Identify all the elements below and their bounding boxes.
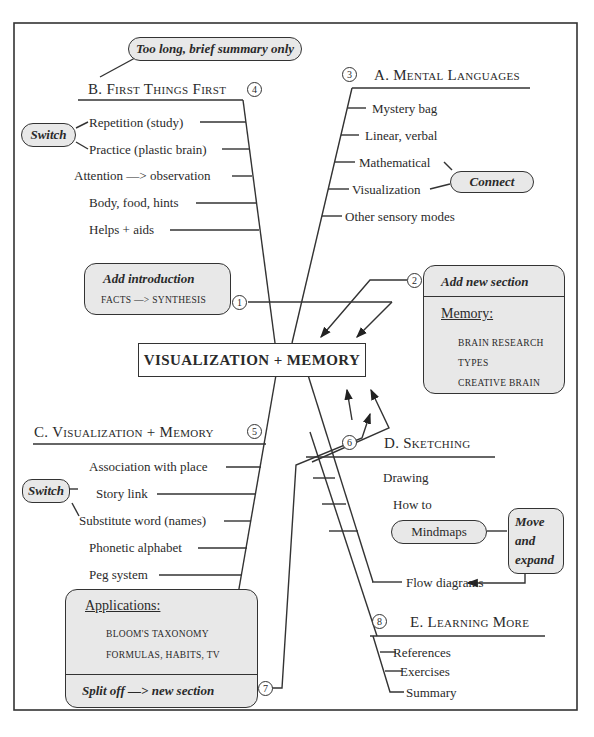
section-e-title: E. Learning More: [410, 615, 529, 630]
marker-3: 3: [342, 67, 357, 82]
add-introduction-body: FACTS —> SYNTHESIS: [101, 293, 206, 308]
note-add-introduction[interactable]: Add introduction FACTS —> SYNTHESIS: [84, 263, 231, 315]
section-a-item: Mathematical: [359, 155, 430, 170]
section-b-item: Body, food, hints: [89, 195, 178, 210]
section-a-item: Linear, verbal: [365, 128, 437, 143]
section-d-item: How to: [393, 497, 432, 512]
add-section-item: BRAIN RESEARCH: [458, 336, 544, 351]
section-c-item: Substitute word (names): [79, 513, 206, 528]
divider: [66, 674, 257, 675]
note-move-and-expand[interactable]: Move and expand: [508, 508, 564, 574]
note-too-long-summary[interactable]: Too long, brief summary only: [128, 37, 302, 61]
move-expand-line: and: [515, 533, 535, 548]
section-c-item: Phonetic alphabet: [89, 540, 182, 555]
note-switch-b[interactable]: Switch: [21, 123, 76, 147]
marker-8: 8: [372, 614, 387, 629]
move-expand-line: expand: [515, 552, 554, 567]
section-b-title: B. First Things First: [88, 82, 226, 97]
section-d-item: Flow diagrams: [406, 575, 484, 590]
note-add-new-section[interactable]: Add new section Memory: BRAIN RESEARCH T…: [423, 265, 565, 394]
section-c-item: Association with place: [89, 459, 207, 474]
divider: [424, 296, 564, 297]
central-topic[interactable]: VISUALIZATION + MEMORY: [138, 343, 366, 377]
section-a-title: A. Mental Languages: [374, 68, 520, 83]
note-switch-c[interactable]: Switch: [22, 479, 70, 503]
section-e-item: Summary: [406, 685, 457, 700]
section-b-item: Practice (plastic brain): [89, 142, 207, 157]
section-b-item: Helps + aids: [89, 222, 154, 237]
add-section-item: TYPES: [458, 356, 489, 371]
marker-7: 7: [258, 681, 273, 696]
marker-1: 1: [232, 295, 247, 310]
add-section-heading: Memory:: [441, 306, 493, 321]
add-section-item: CREATIVE BRAIN: [458, 376, 540, 391]
section-b-item: Attention —> observation: [74, 168, 211, 183]
split-off-label: Split off —> new section: [82, 683, 214, 698]
marker-4: 4: [247, 82, 262, 97]
note-connect[interactable]: Connect: [450, 171, 534, 193]
marker-5: 5: [247, 424, 262, 439]
section-c-title: C. Visualization + Memory: [34, 425, 214, 440]
section-c-item: Story link: [96, 486, 148, 501]
add-introduction-title: Add introduction: [103, 271, 194, 286]
section-d-item: Drawing: [383, 470, 429, 485]
applications-item: FORMULAS, HABITS, TV: [106, 648, 220, 663]
move-expand-line: Move: [515, 514, 545, 529]
note-applications[interactable]: Applications: BLOOM'S TAXONOMY FORMULAS,…: [65, 589, 258, 708]
section-a-item: Other sensory modes: [345, 209, 455, 224]
add-section-title: Add new section: [441, 274, 528, 289]
section-a-item: Visualization: [352, 182, 421, 197]
applications-item: BLOOM'S TAXONOMY: [106, 627, 209, 642]
applications-heading: Applications:: [85, 598, 160, 613]
section-d-title: D. Sketching: [384, 436, 471, 451]
section-e-item: Exercises: [400, 664, 450, 679]
note-mindmaps[interactable]: Mindmaps: [391, 520, 487, 544]
marker-2: 2: [407, 273, 422, 288]
section-a-item: Mystery bag: [372, 101, 437, 116]
marker-6: 6: [342, 435, 357, 450]
section-b-item: Repetition (study): [89, 115, 183, 130]
section-e-item: References: [393, 645, 451, 660]
section-c-item: Peg system: [89, 567, 148, 582]
